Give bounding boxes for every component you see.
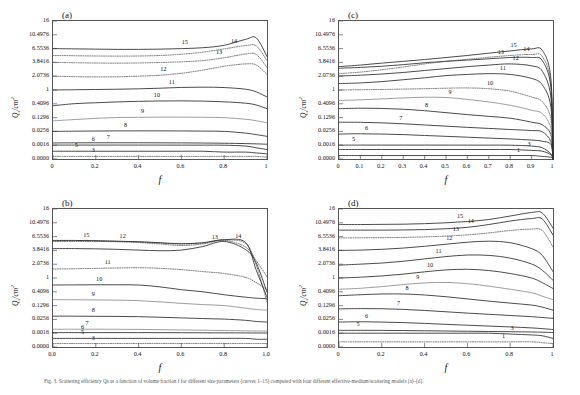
curve-label-13: 13 — [453, 225, 459, 232]
curve-label-6: 6 — [365, 312, 368, 319]
figure-caption: Fig. 3. Scattering efficiency Qs as a fu… — [44, 378, 536, 384]
curves-svg — [339, 209, 553, 347]
y-tick-label: 6.5536 — [291, 232, 335, 239]
y-tick-label: 3.8416 — [291, 245, 335, 252]
curve-8 — [339, 294, 553, 310]
curve-label-5: 5 — [356, 320, 359, 327]
x-tick-label: 0.2 — [371, 350, 391, 357]
curve-label-1: 1 — [502, 332, 505, 339]
curve-label-14: 14 — [468, 217, 474, 224]
curve-10 — [339, 269, 553, 288]
panel-label-d: (d) — [348, 198, 359, 208]
curve-label-15: 15 — [457, 212, 463, 219]
curve-14 — [339, 218, 553, 235]
curve-label-10: 10 — [427, 261, 433, 268]
curve-label-11: 11 — [436, 247, 442, 254]
curve-7 — [339, 309, 553, 319]
curve-3 — [339, 333, 553, 338]
curve-1 — [339, 342, 553, 344]
curve-6 — [339, 322, 553, 330]
curve-label-12: 12 — [446, 234, 452, 241]
y-tick-label: 0.0256 — [291, 314, 335, 321]
y-tick-label: 16 — [291, 204, 335, 211]
curve-label-8: 8 — [406, 284, 409, 291]
x-tick-label: 0.6 — [456, 350, 476, 357]
curve-label-7: 7 — [397, 299, 400, 306]
x-tick-label: 0.4 — [414, 350, 434, 357]
figure-container: (a)1610.49766.55363.84162.073610.40960.1… — [0, 0, 580, 395]
curve-label-9: 9 — [416, 273, 419, 280]
y-tick-label: 0.0000 — [291, 342, 335, 349]
y-tick-label: 10.4976 — [291, 218, 335, 225]
y-axis-label: Qs/cm2 — [298, 285, 309, 306]
curve-5 — [339, 330, 553, 332]
x-tick-label: 0.8 — [499, 350, 519, 357]
plot-area-d — [338, 208, 554, 348]
x-axis-label: f — [338, 362, 554, 373]
x-tick-label: 0 — [328, 350, 348, 357]
x-tick-label: 1 — [542, 350, 562, 357]
y-tick-label: 1 — [291, 273, 335, 280]
curve-label-3: 3 — [510, 324, 513, 331]
y-tick-label: 0.0016 — [291, 328, 335, 335]
plot-panel-d: (d)1610.49766.55363.84162.073610.40960.1… — [0, 0, 580, 395]
y-tick-label: 2.0736 — [291, 259, 335, 266]
